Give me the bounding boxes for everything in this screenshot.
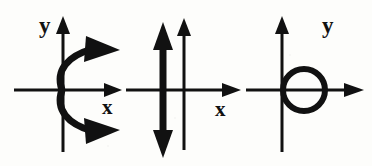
x-axis xyxy=(246,83,364,97)
panel-circle-graphic xyxy=(246,0,372,166)
panel-circle: y x xyxy=(246,0,372,166)
panel-vertical-line: y x xyxy=(126,0,246,166)
panel-vertical-line-x-label: x xyxy=(215,99,226,120)
figure-canvas: y x y x xyxy=(0,0,372,166)
y-axis xyxy=(177,18,191,150)
panel-parabola: y x xyxy=(0,0,126,166)
panel-parabola-graphic xyxy=(0,0,126,166)
panel-vertical-line-graphic xyxy=(126,0,246,166)
panel-parabola-y-label: y xyxy=(39,14,51,37)
panel-parabola-x-label: x xyxy=(102,97,113,118)
